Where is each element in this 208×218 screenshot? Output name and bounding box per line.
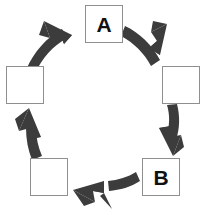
arrow-lower-right-to-bottom-left-icon [73,172,140,209]
arrow-top-to-upper-right-icon [121,21,167,66]
node-label-top: A [96,14,111,35]
arrow-upper-left-to-top-icon [27,21,72,72]
arrow-bottom-left-to-upper-left-icon [15,108,42,160]
node-box-top[interactable]: A [85,5,123,43]
node-box-upper-right[interactable] [162,66,200,104]
arrow-upper-right-to-lower-right-icon [159,104,184,156]
cycle-diagram: A B [0,0,208,218]
node-box-upper-left[interactable] [6,66,44,104]
node-box-lower-right[interactable]: B [142,158,180,196]
node-label-lower-right: B [153,167,168,188]
node-box-bottom-left[interactable] [30,158,68,196]
